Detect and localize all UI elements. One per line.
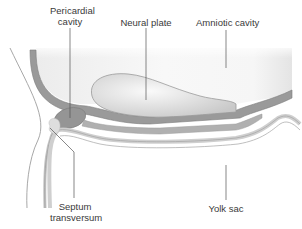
label-septum-line1: Septum <box>50 201 100 212</box>
label-yolk-sac: Yolk sac <box>206 203 246 214</box>
embryo-section-diagram <box>0 0 302 229</box>
septum-transversum <box>49 118 60 134</box>
label-pericardial-cavity: Pericardial cavity <box>50 5 90 27</box>
label-septum-transversum: Septum transversum <box>50 201 100 223</box>
label-septum-line2: transversum <box>50 212 100 223</box>
label-neural-plate: Neural plate <box>118 17 174 28</box>
label-pericardial-line1: Pericardial <box>50 5 90 16</box>
label-pericardial-line2: cavity <box>50 16 90 27</box>
label-amniotic-cavity: Amniotic cavity <box>196 17 258 28</box>
